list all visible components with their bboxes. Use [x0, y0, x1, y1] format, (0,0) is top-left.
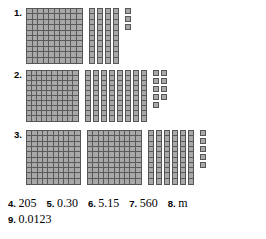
ten-rod-cell [165, 179, 169, 184]
answer-list: 4.2055.0.306.5.157.5608.m 9.0.0123 [8, 196, 266, 228]
base-ten-blocks-2 [26, 70, 266, 122]
ten-rod-cell [126, 116, 130, 121]
ten-rod [148, 130, 154, 185]
ten-rod-cell [110, 116, 114, 121]
ten-rod [109, 70, 115, 122]
base-ten-blocks-3 [26, 130, 266, 185]
ten-rod [180, 130, 186, 185]
one-unit-cube [161, 70, 167, 76]
one-unit-cube [161, 94, 167, 100]
ten-rod-cell [189, 179, 193, 184]
ten-rod-cell [114, 58, 118, 63]
hundred-flat-cell [73, 116, 78, 121]
answer-number: 8. [168, 198, 176, 209]
ten-rod-cell [86, 116, 90, 121]
one-unit-cube [200, 146, 206, 152]
ten-rod [141, 70, 147, 122]
ten-rod [156, 130, 162, 185]
answer-number: 5. [46, 198, 54, 209]
hundred-flat-cell [77, 58, 83, 63]
problem-label-2: 2. [0, 70, 26, 80]
hundred-flat-cell [75, 179, 80, 184]
ten-rod-cell [106, 58, 110, 63]
one-unit-cube [125, 24, 131, 30]
ten-rod [172, 130, 178, 185]
ten-rod [133, 70, 139, 122]
ten-rod [89, 8, 95, 64]
ten-rod-cell [149, 179, 153, 184]
ones-units-3 [200, 130, 206, 168]
answer-item: 6.5.15 [88, 196, 119, 211]
one-unit-cube [153, 102, 159, 108]
answer-value: 0.0123 [18, 212, 51, 227]
ten-rod [101, 70, 107, 122]
answer-value: 560 [140, 196, 158, 211]
one-unit-cube [125, 16, 131, 22]
hundred-flat [26, 130, 81, 185]
problem-label-3: 3. [0, 130, 26, 140]
tens-rods-1 [89, 8, 119, 64]
ten-rod [105, 8, 111, 64]
hundred-flat [26, 70, 79, 122]
one-unit-cube [161, 78, 167, 84]
answer-value: m [178, 196, 187, 211]
hundred-flat [26, 8, 83, 64]
base-ten-blocks-1 [26, 8, 266, 64]
ten-rod-cell [142, 116, 146, 121]
ten-rod [164, 130, 170, 185]
answer-item: 7.560 [129, 196, 157, 211]
answer-item: 5.0.30 [46, 196, 77, 211]
ones-units-2 [153, 70, 167, 108]
one-unit-cube [200, 130, 206, 136]
hundred-flat [87, 130, 142, 185]
one-unit-cube [153, 94, 159, 100]
ten-rod [113, 8, 119, 64]
ten-rod [97, 8, 103, 64]
answer-number: 6. [88, 198, 96, 209]
answer-number: 4. [8, 198, 16, 209]
one-unit-cube [200, 138, 206, 144]
problem-row-2: 2. [0, 70, 266, 124]
ten-rod-cell [98, 58, 102, 63]
problem-label-1: 1. [0, 8, 26, 18]
answer-value: 0.30 [57, 196, 78, 211]
answer-number: 9. [8, 214, 16, 225]
ten-rod-cell [173, 179, 177, 184]
ones-units-1 [125, 8, 131, 30]
ten-rod [117, 70, 123, 122]
one-unit-cube [200, 154, 206, 160]
tens-rods-3 [148, 130, 194, 185]
ten-rod-cell [102, 116, 106, 121]
ten-rod [93, 70, 99, 122]
answer-item: 9.0.0123 [8, 212, 51, 227]
answer-number: 7. [129, 198, 137, 209]
answer-value: 205 [18, 196, 36, 211]
hundreds-group-2 [26, 70, 79, 122]
problem-row-1: 1. [0, 8, 266, 66]
answer-item: 4.205 [8, 196, 36, 211]
one-unit-cube [153, 78, 159, 84]
hundreds-group-3 [26, 130, 142, 185]
ten-rod [85, 70, 91, 122]
one-unit-cube [153, 70, 159, 76]
problem-row-3: 3. [0, 130, 266, 188]
hundreds-group-1 [26, 8, 83, 64]
ten-rod-cell [157, 179, 161, 184]
ten-rod [188, 130, 194, 185]
ten-rod-cell [90, 58, 94, 63]
ten-rod [125, 70, 131, 122]
one-unit-cube [125, 8, 131, 14]
ten-rod-cell [134, 116, 138, 121]
answer-line-2: 9.0.0123 [8, 212, 266, 228]
answer-value: 5.15 [98, 196, 119, 211]
ten-rod-cell [118, 116, 122, 121]
answer-line-1: 4.2055.0.306.5.157.5608.m [8, 196, 266, 212]
one-unit-cube [200, 162, 206, 168]
ten-rod-cell [94, 116, 98, 121]
answer-item: 8.m [168, 196, 188, 211]
hundred-flat-cell [136, 179, 141, 184]
tens-rods-2 [85, 70, 147, 122]
ten-rod-cell [181, 179, 185, 184]
one-unit-cube [161, 86, 167, 92]
one-unit-cube [153, 86, 159, 92]
